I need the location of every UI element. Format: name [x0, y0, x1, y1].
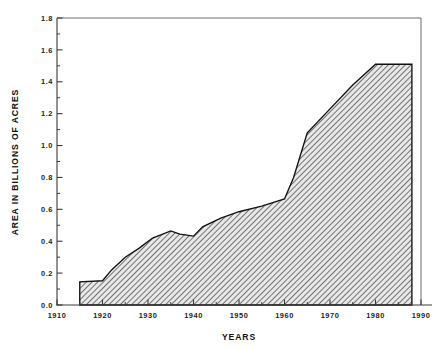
x-tick-label: 1930 — [139, 311, 158, 320]
x-tick-label: 1940 — [184, 311, 203, 320]
y-tick-label: 1.6 — [41, 46, 53, 55]
y-tick-label: 0.4 — [41, 237, 53, 246]
x-tick-label: 1960 — [275, 311, 294, 320]
y-tick-label: 1.4 — [41, 77, 53, 86]
y-tick-label: 1.8 — [41, 14, 53, 23]
x-tick-label: 1970 — [321, 311, 340, 320]
data-series-area — [80, 64, 412, 305]
y-axis: 0.00.20.40.60.81.01.21.41.61.8 — [41, 14, 62, 310]
x-axis-title: YEARS — [222, 332, 256, 342]
x-tick-label: 1950 — [230, 311, 249, 320]
area-chart: 0.00.20.40.60.81.01.21.41.61.8 191019201… — [0, 0, 444, 350]
y-axis-title: AREA IN BILLIONS OF ACRES — [10, 89, 20, 235]
x-tick-label: 1980 — [366, 311, 385, 320]
y-tick-label: 0.0 — [41, 301, 53, 310]
chart-container: 0.00.20.40.60.81.01.21.41.61.8 191019201… — [0, 0, 444, 350]
y-tick-label: 1.0 — [41, 141, 53, 150]
y-tick-label: 0.2 — [41, 269, 53, 278]
x-tick-label: 1920 — [93, 311, 112, 320]
x-tick-label: 1910 — [48, 311, 67, 320]
y-tick-label: 0.6 — [41, 205, 53, 214]
y-tick-label: 0.8 — [41, 173, 53, 182]
x-tick-label: 1990 — [412, 311, 431, 320]
y-tick-label: 1.2 — [41, 109, 53, 118]
